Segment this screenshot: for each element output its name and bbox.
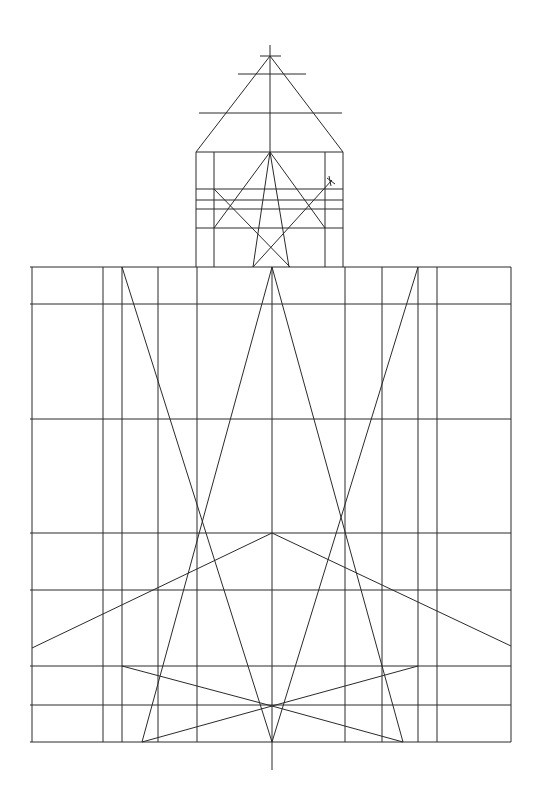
spire-lines — [196, 45, 343, 152]
tower-line — [327, 178, 335, 184]
spire-line — [196, 56, 270, 152]
spire-line — [270, 56, 343, 152]
base-line — [142, 267, 272, 742]
tower-lines — [196, 152, 343, 267]
base-line — [272, 706, 403, 742]
base-line — [272, 267, 403, 742]
construction-drawing — [0, 0, 541, 806]
drawing-svg — [0, 0, 541, 806]
tower-line — [214, 152, 270, 228]
base-grid-lines — [30, 267, 511, 770]
tower-line — [270, 152, 325, 228]
base-line — [142, 706, 272, 742]
tower-line — [253, 180, 332, 267]
